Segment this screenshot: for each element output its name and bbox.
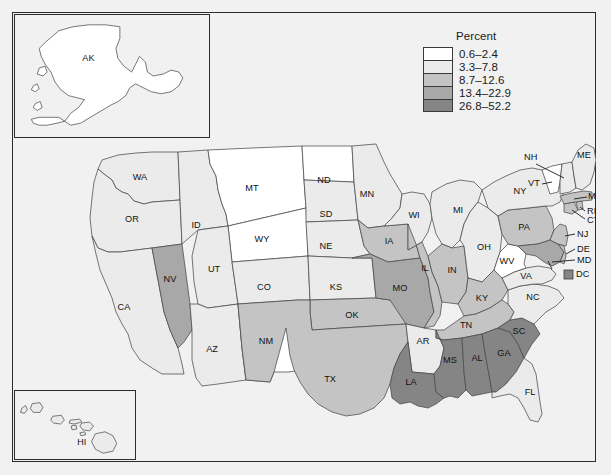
hi-island-hawaii (92, 432, 117, 453)
hawaii-inset: HI (14, 390, 136, 460)
hi-island-molokai (69, 419, 82, 424)
label-NE: NE (320, 241, 333, 251)
label-IN: IN (447, 265, 456, 275)
map-legend: Percent 0.6–2.43.3–7.88.7–12.613.4–22.92… (423, 30, 511, 112)
label-MS: MS (443, 355, 457, 365)
state-AZ[interactable] (190, 304, 246, 386)
label-NH: NH (524, 152, 537, 162)
legend-label-0: 0.6–2.4 (459, 48, 498, 60)
label-NY: NY (514, 186, 527, 196)
label-MI: MI (453, 205, 463, 215)
label-NV: NV (164, 274, 178, 284)
alaska-inset: AK (14, 14, 210, 138)
state-AK[interactable] (39, 25, 183, 125)
legend-swatch-4 (423, 99, 453, 112)
label-HI: HI (77, 437, 86, 447)
leader-DE (566, 249, 575, 254)
label-TX: TX (324, 374, 336, 384)
legend-title: Percent (456, 30, 511, 42)
label-LA: LA (405, 377, 417, 387)
ak-aleutian-tail (31, 117, 64, 125)
label-CT: CT (587, 215, 596, 225)
label-VT: VT (528, 178, 540, 188)
label-UT: UT (208, 264, 221, 274)
label-AK: AK (82, 53, 94, 63)
label-ND: ND (317, 175, 331, 185)
state-CO[interactable] (232, 256, 310, 304)
label-AL: AL (471, 353, 482, 363)
label-MO: MO (393, 283, 408, 293)
legend-label-3: 13.4–22.9 (459, 87, 511, 99)
label-MD: MD (577, 255, 592, 265)
legend-label-2: 8.7–12.6 (459, 74, 505, 86)
label-PA: PA (518, 222, 530, 232)
state-NC[interactable] (508, 284, 564, 324)
legend-swatch-0 (423, 47, 453, 60)
label-DE: DE (577, 244, 590, 254)
label-GA: GA (497, 348, 511, 358)
label-NC: NC (526, 292, 540, 302)
ak-island-3 (33, 102, 42, 111)
label-SD: SD (320, 209, 333, 219)
label-SC: SC (513, 326, 526, 336)
label-CO: CO (257, 282, 271, 292)
legend-swatch-1 (423, 60, 453, 73)
label-ID: ID (191, 220, 201, 230)
label-ME: ME (577, 150, 591, 160)
legend-label-1: 3.3–7.8 (459, 61, 498, 73)
label-IL: IL (421, 263, 429, 273)
leader-CT (572, 210, 585, 219)
ak-island-2 (31, 84, 39, 92)
label-OH: OH (477, 242, 491, 252)
hi-island-maui (80, 422, 94, 431)
legend-swatch-3 (423, 86, 453, 99)
label-MN: MN (360, 189, 374, 199)
label-VA: VA (520, 271, 532, 281)
label-IA: IA (385, 236, 395, 246)
legend-row[interactable]: 26.8–52.2 (423, 99, 511, 112)
label-KS: KS (330, 282, 342, 292)
label-MA: MA (588, 191, 596, 201)
label-DC: DC (576, 269, 590, 279)
hi-island-kahoolawe (80, 432, 86, 436)
label-WI: WI (408, 210, 419, 220)
label-OR: OR (125, 214, 139, 224)
hi-island-oahu (51, 415, 65, 424)
label-AR: AR (417, 336, 430, 346)
choropleth-map-figure: WA OR CA NV ID MT WY UT AZ NM CO ND SD N… (0, 0, 611, 475)
label-WY: WY (255, 234, 270, 244)
state-KS[interactable] (308, 256, 376, 300)
label-WV: WV (500, 256, 516, 266)
hi-island-niihau (21, 406, 28, 414)
hi-island-kauai (30, 403, 43, 413)
label-WA: WA (133, 172, 148, 182)
label-NJ: NJ (577, 229, 588, 239)
legend-label-4: 26.8–52.2 (459, 100, 511, 112)
label-MT: MT (245, 183, 259, 193)
ak-island-1 (37, 66, 47, 76)
legend-row[interactable]: 0.6–2.4 (423, 47, 511, 60)
label-OK: OK (345, 310, 359, 320)
legend-swatch-2 (423, 73, 453, 86)
legend-row[interactable]: 3.3–7.8 (423, 60, 511, 73)
label-NM: NM (259, 336, 273, 346)
label-FL: FL (525, 387, 536, 397)
dc-marker[interactable] (564, 270, 573, 279)
legend-row[interactable]: 13.4–22.9 (423, 86, 511, 99)
legend-rows: 0.6–2.43.3–7.88.7–12.613.4–22.926.8–52.2 (423, 47, 511, 112)
label-AZ: AZ (206, 344, 218, 354)
label-KY: KY (476, 293, 488, 303)
label-TN: TN (460, 320, 472, 330)
label-CA: CA (118, 302, 132, 312)
hi-island-lanai (71, 425, 77, 430)
legend-row[interactable]: 8.7–12.6 (423, 73, 511, 86)
